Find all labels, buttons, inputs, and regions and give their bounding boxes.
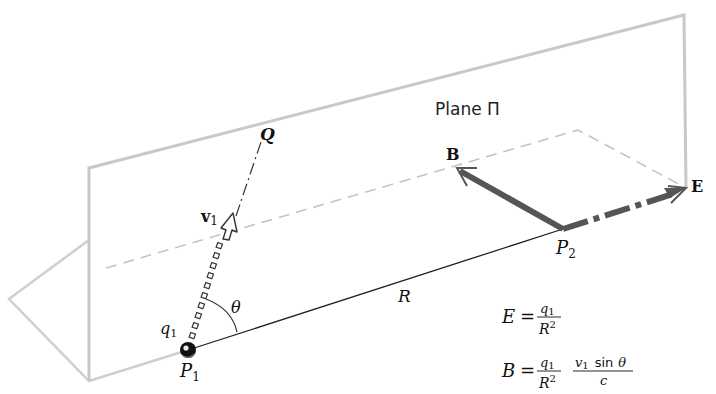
label-q1: q1 bbox=[160, 319, 177, 340]
label-B: B bbox=[446, 145, 460, 164]
direction-line-Q bbox=[236, 142, 261, 216]
equation-B: B = q1 R2 v1sinθ c bbox=[501, 355, 633, 391]
magnetic-field-vector-B bbox=[460, 171, 563, 229]
distance-line-R bbox=[188, 229, 563, 350]
label-R: R bbox=[397, 286, 411, 306]
vertical-plane bbox=[89, 15, 686, 381]
field-diagram: Plane Π Q v1 q1 P1 θ R P2 B E E = q1 R2 … bbox=[0, 0, 716, 394]
dashed-plane-line bbox=[106, 130, 686, 268]
label-E: E bbox=[691, 177, 703, 196]
label-Q: Q bbox=[260, 124, 275, 144]
label-v1: v1 bbox=[200, 207, 218, 228]
svg-text:R2: R2 bbox=[538, 319, 556, 337]
svg-text:=: = bbox=[520, 306, 535, 327]
svg-text:q1: q1 bbox=[540, 301, 555, 317]
label-P1: P1 bbox=[179, 360, 200, 384]
svg-text:B: B bbox=[501, 360, 515, 381]
hollow-arrowhead-icon bbox=[221, 213, 237, 240]
svg-text:v1sinθ: v1sinθ bbox=[575, 355, 626, 371]
velocity-vector-v1 bbox=[189, 213, 237, 339]
svg-text:R2: R2 bbox=[538, 373, 556, 391]
label-theta: θ bbox=[231, 298, 241, 317]
plane-label: Plane Π bbox=[435, 99, 500, 119]
equation-E: E = q1 R2 bbox=[501, 301, 561, 337]
floor-plane bbox=[9, 240, 188, 381]
svg-text:=: = bbox=[520, 360, 535, 381]
electric-field-vector-E bbox=[563, 193, 676, 229]
svg-text:q1: q1 bbox=[540, 355, 555, 371]
charge-particle-icon bbox=[180, 342, 196, 358]
label-P2: P2 bbox=[555, 237, 576, 261]
svg-text:c: c bbox=[600, 373, 608, 388]
svg-text:E: E bbox=[501, 306, 515, 327]
